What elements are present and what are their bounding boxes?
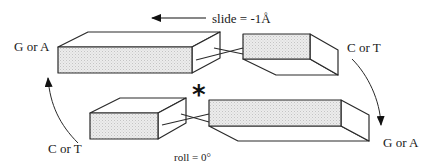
front-face xyxy=(243,34,310,59)
front-face xyxy=(90,113,158,139)
bottom-right-base-block xyxy=(209,100,369,141)
label-top-right-base: C or T xyxy=(347,41,381,54)
label-bottom-right-base: G or A xyxy=(383,136,418,149)
roll-label: roll = 0° xyxy=(174,152,211,163)
label-bottom-left-base: C or T xyxy=(48,142,82,155)
front-face xyxy=(209,100,341,126)
front-face xyxy=(58,47,192,73)
top-left-base-block xyxy=(58,32,220,73)
base-step-diagram: slide = -1Å G or A C or T C or T G or A … xyxy=(0,0,424,168)
bottom-left-base-block xyxy=(90,98,186,139)
top-right-base-block xyxy=(243,34,338,75)
asterisk-marker: * xyxy=(192,82,206,108)
label-top-left-base: G or A xyxy=(14,40,49,53)
slide-label: slide = -1Å xyxy=(212,12,271,25)
left-curved-arrow xyxy=(48,78,78,143)
